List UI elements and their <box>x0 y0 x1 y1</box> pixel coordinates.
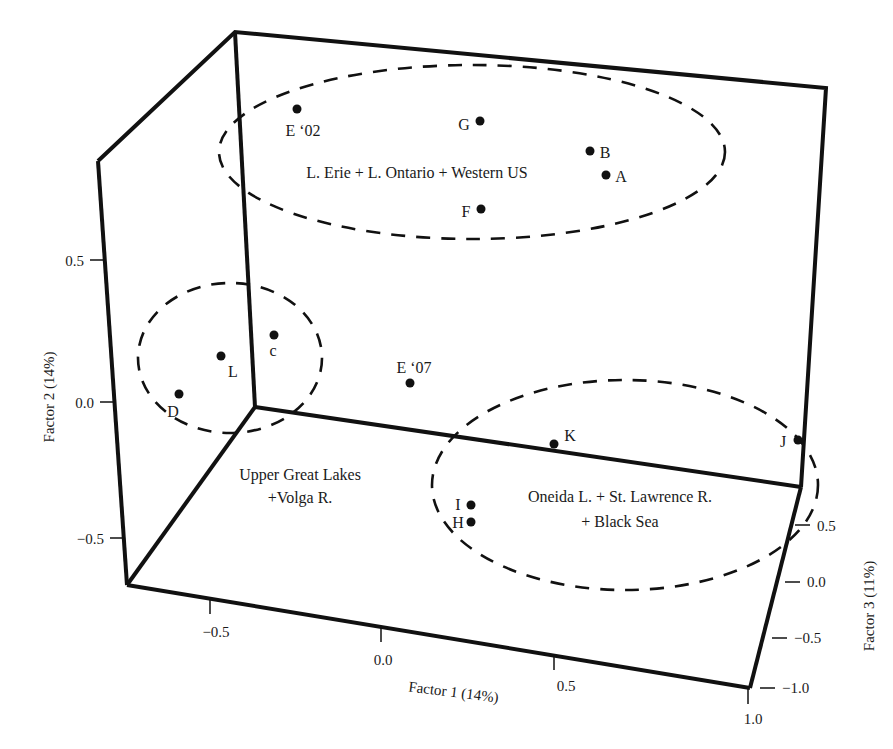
point-i <box>467 501 476 510</box>
y-tick-label: 0.5 <box>65 253 84 269</box>
group-ellipse-erie-ontario <box>219 65 725 239</box>
point-label-g: G <box>458 116 470 133</box>
left-vertical-edge <box>98 161 127 585</box>
point-label-e07: E ‘07 <box>396 359 431 376</box>
x-tick-label: 0.5 <box>557 678 576 694</box>
x-axis-label: Factor 1 (14%) <box>407 679 499 707</box>
point-label-b: B <box>600 144 611 161</box>
group-ellipse-upper-great-lakes <box>138 283 322 433</box>
z-tick-label: 0.5 <box>817 518 836 534</box>
x-tick-label: 1.0 <box>744 711 763 727</box>
x-tick-label: −0.5 <box>202 624 229 640</box>
group-label-erie-ontario: L. Erie + L. Ontario + Western US <box>306 164 527 181</box>
group-label-oneida: Oneida L. + St. Lawrence R. <box>528 488 712 505</box>
point-label-d: D <box>167 403 179 420</box>
z-tick-label: −1.0 <box>782 680 809 696</box>
point-label-j: J <box>780 433 786 450</box>
point-label-l: L <box>228 363 238 380</box>
group-label-upper-great-lakes-2: +Volga R. <box>268 489 333 507</box>
point-a <box>602 171 611 180</box>
point-label-a: A <box>615 168 627 185</box>
point-e02 <box>293 105 302 114</box>
point-l <box>217 352 226 361</box>
point-f <box>477 205 486 214</box>
point-k <box>550 440 559 449</box>
point-b <box>586 147 595 156</box>
point-c <box>270 331 279 340</box>
y-axis-label: Factor 2 (14%) <box>41 352 58 443</box>
point-label-h: H <box>452 514 464 531</box>
z-tick-label: 0.0 <box>807 574 826 590</box>
y-tick-label: −0.5 <box>77 531 104 547</box>
x-tick-label: 0.0 <box>374 652 393 668</box>
group-label-upper-great-lakes: Upper Great Lakes <box>239 466 361 484</box>
point-g <box>476 117 485 126</box>
point-label-e02: E ‘02 <box>285 122 320 139</box>
point-h <box>467 518 476 527</box>
y-tick-label: 0.0 <box>75 395 94 411</box>
pca-3d-scatter-chart: 0.5 0.0 −0.5 Factor 2 (14%) −0.5 0.0 0.5… <box>0 0 893 749</box>
group-label-oneida-2: + Black Sea <box>581 513 658 530</box>
point-d <box>175 390 184 399</box>
back-wall-outline <box>98 32 826 487</box>
back-vertical-edge <box>235 32 255 407</box>
point-label-i: I <box>455 496 460 513</box>
group-ellipse-oneida <box>432 380 818 590</box>
point-label-k: K <box>564 427 576 444</box>
z-axis-line <box>750 487 801 688</box>
z-axis-label: Factor 3 (11%) <box>861 561 878 651</box>
z-tick-label: −0.5 <box>794 630 821 646</box>
point-e07 <box>406 379 415 388</box>
point-j <box>794 436 803 445</box>
point-label-f: F <box>462 203 471 220</box>
point-label-c: c <box>269 342 276 359</box>
